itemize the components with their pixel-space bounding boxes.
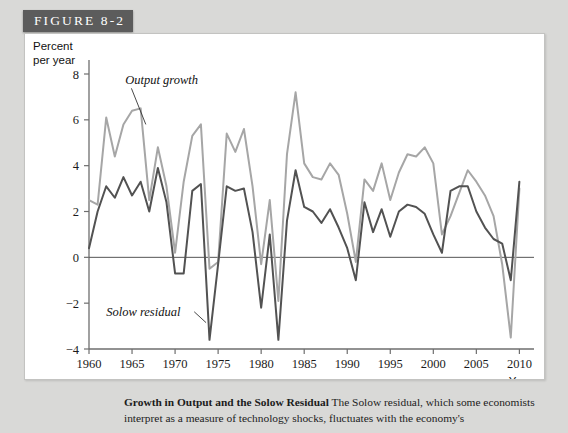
y-tick-label: 8 (73, 68, 79, 82)
x-tick-label: 2000 (421, 357, 446, 371)
annotation-leader-output-growth (131, 88, 145, 124)
y-axis-title: per year (33, 54, 75, 66)
x-tick-label: 2005 (464, 357, 489, 371)
series-layer (89, 92, 519, 339)
x-tick-label: 1995 (378, 357, 403, 371)
y-tick-label: 2 (73, 205, 79, 219)
y-tick-label: 0 (73, 251, 79, 265)
x-tick-label: 1970 (163, 357, 188, 371)
annotation-label-output-growth: Output growth (125, 73, 198, 87)
x-axis-title: Year (509, 375, 532, 379)
caption-title: Growth in Output and the Solow Residual (124, 396, 329, 408)
y-tick-label: −2 (66, 297, 79, 311)
figure-caption: Growth in Output and the Solow Residual … (124, 394, 548, 427)
series-line-output-growth (89, 92, 519, 337)
x-tick-label: 1985 (292, 357, 317, 371)
annotation-label-solow-residual: Solow residual (106, 305, 181, 319)
y-tick-label: 6 (73, 113, 79, 127)
x-tick-label: 1960 (77, 357, 102, 371)
y-tick-label: −4 (66, 343, 80, 357)
x-tick-label: 1980 (249, 357, 274, 371)
axis-label-layer: −4−2024681960196519701975198019851990199… (33, 40, 532, 379)
x-tick-label: 1965 (120, 357, 145, 371)
x-tick-label: 1975 (206, 357, 231, 371)
x-tick-label: 2010 (507, 357, 532, 371)
line-chart: Output growthSolow residual −4−202468196… (25, 34, 544, 379)
chart-panel: Output growthSolow residual −4−202468196… (24, 33, 545, 380)
figure-number-label: FIGURE 8-2 (23, 13, 125, 29)
y-axis-title: Percent (33, 40, 73, 52)
y-tick-label: 4 (73, 159, 80, 173)
annotation-leader-solow-residual (194, 312, 206, 323)
x-tick-label: 1990 (335, 357, 360, 371)
figure-banner: FIGURE 8-2 (23, 10, 133, 32)
